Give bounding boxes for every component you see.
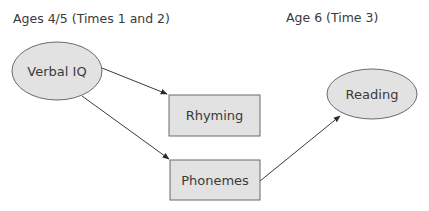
node-verbal-iq: Verbal IQ bbox=[12, 42, 102, 100]
phonemes-label: Phonemes bbox=[181, 173, 249, 188]
edge-verbal-iq-to-rhyming bbox=[102, 68, 167, 94]
rhyming-label: Rhyming bbox=[186, 108, 244, 123]
node-reading: Reading bbox=[327, 69, 417, 119]
reading-label: Reading bbox=[346, 87, 399, 102]
edge-verbal-iq-to-phonemes bbox=[82, 96, 169, 159]
path-diagram: Ages 4/5 (Times 1 and 2) Age 6 (Time 3) … bbox=[0, 0, 429, 211]
node-rhyming: Rhyming bbox=[169, 95, 260, 136]
verbal-iq-label: Verbal IQ bbox=[27, 64, 86, 79]
header-ages-4-5: Ages 4/5 (Times 1 and 2) bbox=[13, 11, 170, 26]
header-age-6: Age 6 (Time 3) bbox=[286, 10, 378, 25]
node-phonemes: Phonemes bbox=[170, 160, 260, 200]
edge-phonemes-to-reading bbox=[260, 116, 340, 181]
